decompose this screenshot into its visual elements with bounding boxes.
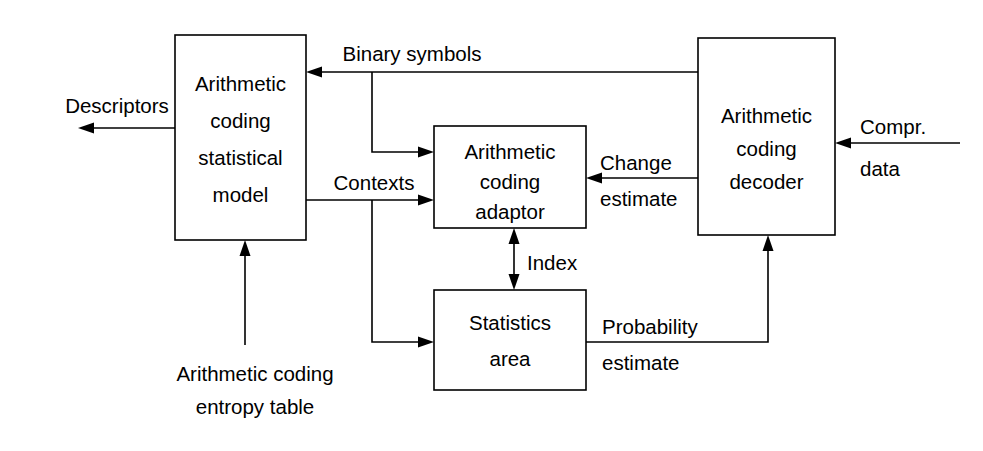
block-diagram: Arithmetic coding statistical model Arit… (0, 0, 983, 451)
label-contexts: Contexts (334, 171, 415, 194)
statistics-area-label-line-1: Statistics (469, 311, 551, 334)
binary-symbols-branch-arrowhead (418, 147, 434, 158)
box-statistics-area[interactable]: Statistics area (434, 290, 586, 390)
statistical-model-label-line-4: model (213, 183, 269, 206)
label-descriptors: Descriptors (65, 94, 169, 117)
label-binary-symbols: Binary symbols (343, 42, 482, 65)
statistical-model-label-line-1: Arithmetic (195, 72, 286, 95)
connector-contexts (306, 195, 434, 348)
contexts-branch-line (372, 200, 427, 342)
statistical-model-rect (175, 35, 306, 240)
connector-change-estimate (586, 173, 698, 184)
statistics-area-rect (434, 290, 586, 390)
index-arrowhead-down (509, 274, 520, 290)
contexts-arrowhead (418, 195, 434, 206)
binary-symbols-branch-line (372, 72, 427, 152)
coding-adaptor-label-line-3: adaptor (475, 200, 545, 223)
box-coding-adaptor[interactable]: Arithmetic coding adaptor (434, 126, 586, 228)
coding-adaptor-label-line-1: Arithmetic (464, 140, 555, 163)
coding-decoder-label-line-2: coding (736, 137, 796, 160)
label-probability-estimate-line-2: estimate (602, 351, 679, 374)
statistical-model-label-line-2: coding (210, 109, 270, 132)
descriptors-arrowhead (78, 123, 94, 134)
compr-data-arrowhead (835, 138, 851, 149)
probability-estimate-arrowhead (763, 235, 774, 251)
binary-symbols-arrowhead (306, 67, 322, 78)
label-change-estimate-line-2: estimate (600, 187, 677, 210)
connector-index (509, 228, 520, 290)
statistical-model-label-line-3: statistical (198, 146, 282, 169)
coding-decoder-label-line-1: Arithmetic (721, 104, 812, 127)
entropy-table-arrowhead (240, 240, 251, 256)
diagram-canvas: Arithmetic coding statistical model Arit… (0, 0, 983, 451)
connector-compr-data (835, 138, 960, 149)
label-change-estimate-line-1: Change (600, 151, 672, 174)
label-entropy-table-line-2: entropy table (196, 395, 315, 418)
connector-entropy-table (240, 240, 251, 345)
contexts-branch-arrowhead (418, 337, 434, 348)
coding-adaptor-label-line-2: coding (480, 170, 540, 193)
label-compr-data-line-2: data (860, 157, 900, 180)
connector-descriptors (78, 123, 175, 134)
label-probability-estimate-line-1: Probability (602, 315, 698, 338)
box-statistical-model[interactable]: Arithmetic coding statistical model (175, 35, 306, 240)
statistics-area-label-line-2: area (489, 347, 531, 370)
change-estimate-arrowhead (586, 173, 602, 184)
box-coding-decoder[interactable]: Arithmetic coding decoder (698, 38, 835, 235)
label-index: Index (527, 251, 578, 274)
index-arrowhead-up (509, 228, 520, 244)
coding-decoder-label-line-3: decoder (729, 170, 803, 193)
label-entropy-table-line-1: Arithmetic coding (176, 362, 333, 385)
label-compr-data-line-1: Compr. (860, 115, 926, 138)
